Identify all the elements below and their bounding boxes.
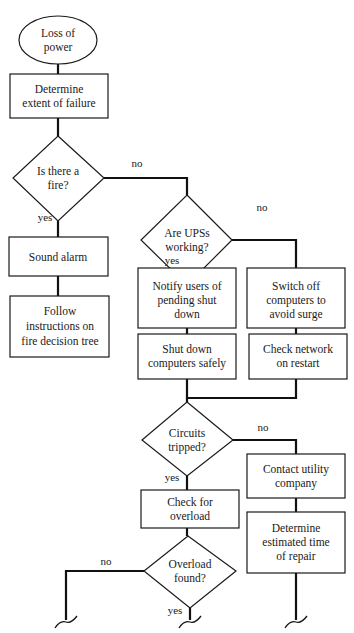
node-text: extent of failure [22,97,95,109]
node-text: Circuits [169,427,206,439]
node-text: Sound alarm [29,251,88,263]
node-text: Switch off [272,280,320,292]
edge-label-fire-no: no [132,157,144,169]
flowchart-canvas: Loss of power Determine extent of failur… [0,0,354,633]
node-text: Notify users of [153,280,222,293]
node-check-network: Check network on restart [249,334,347,379]
node-text: Determine [272,522,321,534]
node-follow-instructions: Follow instructions on fire decision tre… [10,296,109,357]
decision-overload-found: Overload found? [144,536,236,608]
edge-label-overload-yes: yes [168,604,183,616]
node-text: Check network [263,343,333,355]
node-text: fire? [47,179,68,191]
node-shut-down: Shut down computers safely [138,334,236,379]
node-text: Determine [35,83,84,95]
decision-is-fire: Is there a fire? [13,136,104,221]
edge-label-ups-no: no [257,201,269,213]
node-contact-utility: Contact utility company [247,454,345,498]
node-text: fire decision tree [21,335,98,347]
node-text: company [275,477,317,490]
node-text: avoid surge [269,308,322,321]
node-text: instructions on [26,320,94,332]
node-text: Check for [167,496,213,508]
node-switch-off: Switch off computers to avoid surge [247,268,345,328]
node-text: Overload [169,558,212,570]
node-text: estimated time [262,536,329,548]
edge-label-circuits-yes: yes [165,471,180,483]
node-text: Is there a [37,165,79,177]
node-text: Are UPSs [164,227,210,239]
node-start-line1: Loss of [41,27,75,39]
node-sound-alarm: Sound alarm [9,237,108,276]
edge-label-circuits-no: no [258,421,270,433]
node-text: computers safely [148,357,226,370]
node-text: of repair [276,550,315,563]
node-start: Loss of power [19,16,97,64]
node-text: Shut down [162,343,212,355]
node-text: Contact utility [263,463,329,476]
node-check-overload: Check for overload [141,490,239,528]
node-notify-users: Notify users of pending shut down [138,268,236,328]
node-start-line2: power [44,41,73,54]
node-text: computers to [266,294,326,307]
node-text: tripped? [168,441,206,454]
node-determine-extent: Determine extent of failure [10,74,108,118]
node-text: overload [170,510,210,522]
node-text: Follow [44,305,77,317]
edge-label-overload-no: no [101,555,113,567]
node-text: down [174,308,200,320]
node-estimate-repair: Determine estimated time of repair [247,512,345,573]
edge-label-fire-yes: yes [38,211,53,223]
edge-label-ups-yes: yes [165,254,180,266]
continuation-marks [55,616,307,628]
decision-circuits-tripped: Circuits tripped? [142,402,233,476]
node-text: on restart [276,357,320,369]
node-text: working? [165,241,208,254]
node-text: pending shut [157,294,217,307]
node-text: found? [174,572,206,584]
